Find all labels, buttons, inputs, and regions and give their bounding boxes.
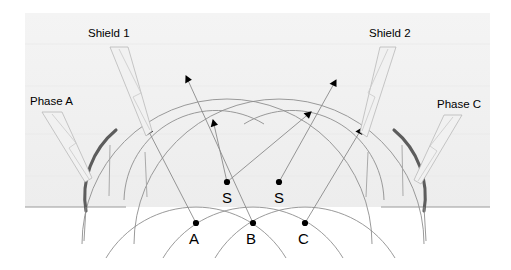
- callout-label-phase-c: Phase C: [437, 99, 481, 111]
- marker-shield-wire-2: [276, 179, 282, 185]
- conductor-label-shield-wire-2: S: [274, 190, 284, 205]
- conductor-label-phase-c: C: [298, 231, 309, 246]
- callout-label-shield-2: Shield 2: [369, 28, 411, 40]
- marker-phase-a: [193, 220, 199, 226]
- marker-phase-c: [302, 220, 308, 226]
- callout-label-shield-1: Shield 1: [88, 28, 130, 40]
- conductor-label-phase-a: A: [189, 231, 199, 246]
- conductor-label-shield-wire-1: S: [222, 190, 232, 205]
- callout-label-phase-a: Phase A: [30, 96, 73, 108]
- diagram-canvas: Shield 1 Shield 2 Phase A Phase C S S A …: [0, 0, 511, 270]
- marker-shield-wire-1: [224, 179, 230, 185]
- conductor-label-phase-b: B: [246, 231, 256, 246]
- marker-phase-b: [250, 220, 256, 226]
